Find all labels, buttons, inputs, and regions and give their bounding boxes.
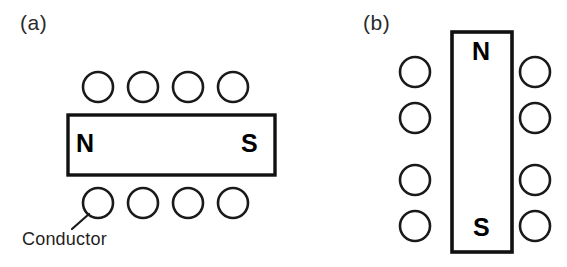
- conductor-circle: [400, 165, 430, 195]
- conductor-circle: [83, 72, 113, 102]
- panel-a-bottom-conductor-row: [83, 188, 248, 218]
- conductor-circle: [218, 72, 248, 102]
- conductor-circle: [128, 188, 158, 218]
- conductor-leader-line: [72, 214, 89, 229]
- panel-b-left-conductor-column: [400, 57, 430, 241]
- conductor-circle: [218, 188, 248, 218]
- conductor-circle: [520, 211, 550, 241]
- panel-b-label: (b): [363, 11, 390, 35]
- panel-a-label: (a): [20, 11, 47, 35]
- panel-b-south-pole-label: S: [473, 215, 490, 240]
- conductor-circle: [400, 211, 430, 241]
- conductor-callout-label: Conductor: [22, 229, 107, 250]
- conductor-circle: [400, 103, 430, 133]
- panel-a-south-pole-label: S: [241, 131, 258, 156]
- conductor-circle: [173, 72, 203, 102]
- conductor-circle: [520, 165, 550, 195]
- conductor-circle: [83, 188, 113, 218]
- conductor-circle: [520, 57, 550, 87]
- conductor-circle: [400, 57, 430, 87]
- conductor-circle: [520, 103, 550, 133]
- conductor-circle: [173, 188, 203, 218]
- panel-a-top-conductor-row: [83, 72, 248, 102]
- conductor-circle: [128, 72, 158, 102]
- panel-b-right-conductor-column: [520, 57, 550, 241]
- panel-b-north-pole-label: N: [472, 39, 490, 64]
- panel-a-north-pole-label: N: [76, 131, 94, 156]
